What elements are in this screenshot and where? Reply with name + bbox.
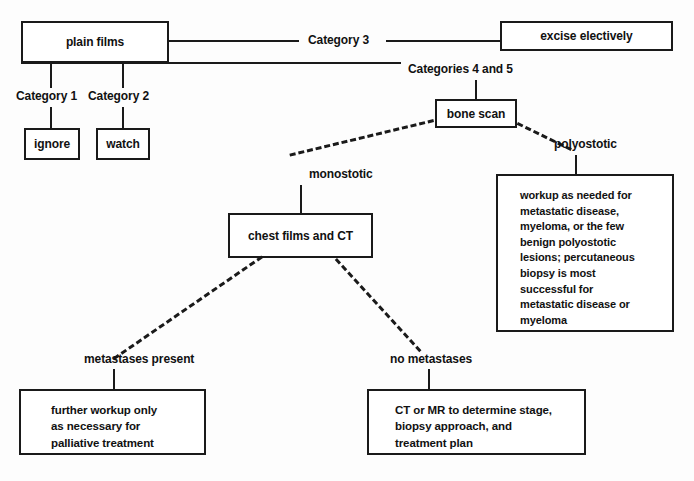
node-plain-films[interactable]: plain films xyxy=(21,21,169,63)
node-excise-electively-label: excise electively xyxy=(540,29,632,43)
node-ignore-label: ignore xyxy=(34,137,70,151)
metastases-present-line: palliative treatment xyxy=(51,435,204,451)
no-metastases-line: treatment plan xyxy=(395,435,584,451)
metastases-present-line: further workup only xyxy=(51,402,204,418)
node-chest-films-and-ct-label: chest films and CT xyxy=(248,229,353,243)
polyostotic-line: biopsy is most xyxy=(520,266,672,282)
label-category-2: Category 2 xyxy=(88,89,149,103)
no-metastases-line: biopsy approach, and xyxy=(395,418,584,434)
polyostotic-line: myeloma xyxy=(520,313,672,329)
polyostotic-line: metastatic disease, xyxy=(520,204,672,220)
metastases-present-line: as necessary for xyxy=(51,418,204,434)
edge-plain-films-to-category3 xyxy=(169,40,299,42)
edge-plain-films-to-categories45 xyxy=(21,62,401,64)
label-categories-4-and-5: Categories 4 and 5 xyxy=(408,62,513,76)
polyostotic-line: benign polyostotic xyxy=(520,235,672,251)
polyostotic-line: myeloma, or the few xyxy=(520,219,672,235)
edge-no-metastases-to-box xyxy=(428,369,430,390)
label-category-1: Category 1 xyxy=(16,89,77,103)
label-monostotic: monostotic xyxy=(309,167,373,181)
node-chest-films-and-ct[interactable]: chest films and CT xyxy=(228,213,373,258)
polyostotic-line: metastatic disease or xyxy=(520,297,672,313)
node-watch-label: watch xyxy=(106,137,140,151)
label-metastases-present: metastases present xyxy=(84,352,194,366)
node-metastases-present-workup[interactable]: further workup only as necessary for pal… xyxy=(19,389,206,455)
edge-bone-scan-to-monostotic xyxy=(289,119,434,156)
node-plain-films-label: plain films xyxy=(66,35,124,49)
edge-category3-to-excise xyxy=(386,40,500,42)
no-metastases-line: CT or MR to determine stage, xyxy=(395,402,584,418)
polyostotic-line: workup as needed for xyxy=(520,188,672,204)
node-bone-scan-label: bone scan xyxy=(447,107,505,121)
node-ignore[interactable]: ignore xyxy=(24,128,80,160)
label-category-3: Category 3 xyxy=(308,33,369,47)
flowchart-canvas: plain films excise electively ignore wat… xyxy=(0,0,694,481)
node-watch[interactable]: watch xyxy=(96,128,150,160)
edge-chest-films-to-metastases-present xyxy=(113,256,263,360)
node-excise-electively[interactable]: excise electively xyxy=(500,21,673,51)
edge-categories45-to-bone-scan xyxy=(475,80,477,100)
edge-polyostotic-to-workup-box xyxy=(575,155,577,175)
edge-chest-films-to-no-metastases xyxy=(335,258,422,352)
node-no-metastases-workup[interactable]: CT or MR to determine stage, biopsy appr… xyxy=(367,389,586,455)
label-polyostotic: polyostotic xyxy=(554,137,617,151)
edge-category2-to-watch xyxy=(122,107,124,129)
polyostotic-line: lesions; percutaneous xyxy=(520,250,672,266)
label-no-metastases: no metastases xyxy=(390,352,472,366)
node-bone-scan[interactable]: bone scan xyxy=(435,99,517,128)
edge-plain-films-to-category2 xyxy=(122,63,124,88)
edge-category1-to-ignore xyxy=(50,107,52,129)
edge-metastases-present-to-box xyxy=(113,369,115,390)
node-polyostotic-workup[interactable]: workup as needed for metastatic disease,… xyxy=(496,174,674,332)
edge-monostotic-to-chest-films xyxy=(300,185,302,214)
polyostotic-line: successful for xyxy=(520,282,672,298)
edge-plain-films-to-category1 xyxy=(50,63,52,88)
